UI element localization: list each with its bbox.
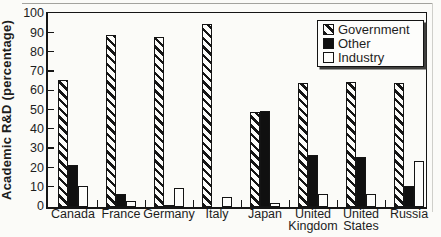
y-tick-label: 60 bbox=[6, 83, 44, 97]
legend-swatch-white-icon bbox=[323, 52, 334, 63]
bar-government-japan bbox=[250, 112, 260, 207]
bar-other-russia bbox=[404, 186, 414, 207]
bar-government-italy bbox=[202, 24, 212, 207]
bar-other-united-kingdom bbox=[308, 155, 318, 207]
legend-label: Other bbox=[338, 37, 371, 50]
legend-item-industry: Industry bbox=[323, 51, 421, 64]
y-tick-label: 50 bbox=[6, 103, 44, 117]
y-tick-mark bbox=[48, 32, 54, 33]
x-tick-mark bbox=[289, 200, 290, 207]
bar-other-united-states bbox=[356, 157, 366, 207]
y-tick-label: 20 bbox=[6, 161, 44, 175]
bar-government-germany bbox=[154, 37, 164, 207]
y-tick-mark bbox=[48, 147, 54, 148]
page-right-rule bbox=[432, 3, 433, 212]
bar-government-united-states bbox=[346, 82, 356, 207]
bar-other-france bbox=[116, 194, 126, 208]
legend-swatch-hatched-icon bbox=[323, 24, 334, 35]
y-tick-label: 70 bbox=[6, 64, 44, 78]
legend-box: GovernmentOtherIndustry bbox=[317, 20, 424, 67]
y-tick-label: 40 bbox=[6, 122, 44, 136]
y-tick-mark bbox=[48, 90, 54, 91]
x-tick-mark bbox=[241, 200, 242, 207]
bar-industry-russia bbox=[414, 161, 424, 207]
y-tick-mark bbox=[48, 51, 54, 52]
x-tick-mark bbox=[337, 200, 338, 207]
bar-industry-united-kingdom bbox=[318, 194, 328, 208]
bar-other-canada bbox=[68, 165, 78, 207]
y-tick-mark bbox=[48, 186, 54, 187]
bar-industry-canada bbox=[78, 186, 88, 207]
x-tick-mark bbox=[145, 200, 146, 207]
y-tick-label: 10 bbox=[6, 180, 44, 194]
bar-industry-germany bbox=[174, 188, 184, 207]
bar-government-united-kingdom bbox=[298, 83, 308, 207]
figure-academic-rd-bar-chart: Academic R&D (percentage) 01020304050607… bbox=[0, 0, 441, 237]
y-tick-label: 30 bbox=[6, 141, 44, 155]
x-tick-mark bbox=[97, 200, 98, 207]
x-tick-mark bbox=[385, 200, 386, 207]
legend-swatch-black-icon bbox=[323, 38, 334, 49]
legend-item-other: Other bbox=[323, 37, 421, 50]
bar-industry-italy bbox=[222, 197, 232, 207]
page-top-rule bbox=[22, 3, 433, 4]
legend-label: Government bbox=[338, 23, 410, 36]
y-tick-mark bbox=[48, 109, 54, 110]
y-tick-mark bbox=[48, 128, 54, 129]
x-tick-mark bbox=[193, 200, 194, 207]
bar-government-canada bbox=[58, 80, 68, 207]
y-tick-mark bbox=[48, 167, 54, 168]
y-tick-mark bbox=[48, 70, 54, 71]
y-tick-label: 0 bbox=[6, 199, 44, 213]
bar-industry-united-states bbox=[366, 194, 376, 208]
bar-government-france bbox=[106, 35, 116, 207]
legend-item-government: Government bbox=[323, 23, 421, 36]
y-tick-label: 90 bbox=[6, 26, 44, 40]
y-tick-label: 80 bbox=[6, 45, 44, 59]
x-category-label: Russia bbox=[381, 209, 437, 221]
legend-label: Industry bbox=[338, 51, 384, 64]
bar-government-russia bbox=[394, 83, 404, 207]
y-tick-label: 100 bbox=[6, 6, 44, 20]
bar-other-japan bbox=[260, 111, 270, 208]
